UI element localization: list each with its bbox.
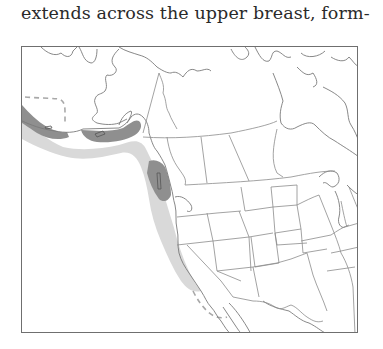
coastline-baja	[223, 303, 251, 333]
body-text-fragment: extends across the upper breast, form-	[21, 2, 371, 24]
coastline-puget	[175, 196, 192, 211]
border-us-states-central	[241, 185, 358, 311]
border-yukon-nwt	[159, 73, 177, 129]
border-alaska-canada	[143, 73, 159, 133]
range-breeding-gulf-of-alaska	[81, 120, 141, 142]
coastline-labrador	[323, 87, 358, 141]
border-canada-60th	[143, 121, 277, 138]
coastline-north	[41, 47, 211, 125]
range-map-svg	[21, 46, 358, 333]
range-map	[21, 46, 358, 333]
border-us-mexico	[233, 297, 323, 322]
coastline-arctic-islands	[231, 47, 358, 87]
coastline-kenai	[119, 111, 132, 125]
range-nonbreeding-area	[22, 116, 201, 292]
border-us-canada	[185, 171, 335, 185]
coastline-great-lakes	[319, 171, 358, 227]
dashed-limit-baja	[193, 291, 227, 318]
border-us-states-east	[327, 187, 358, 333]
